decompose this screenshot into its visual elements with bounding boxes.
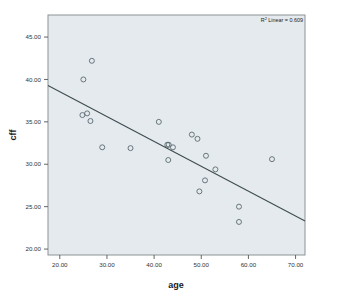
y-tick-label: 35.00 (26, 118, 42, 125)
x-axis-ticks: 20.0030.0040.0050.0060.0070.00 (52, 255, 304, 268)
x-tick-label: 50.00 (194, 261, 210, 268)
x-tick-label: 60.00 (241, 261, 257, 268)
x-tick-label: 30.00 (99, 261, 115, 268)
x-axis-title: age (168, 280, 184, 290)
plot-panel-background (48, 15, 305, 255)
r-squared-annotation: R2 Linear = 0.609 (261, 16, 303, 23)
plot-canvas: 20.0030.0040.0050.0060.0070.00 20.0025.0… (0, 0, 361, 296)
y-tick-label: 45.00 (26, 33, 42, 40)
scatter-plot-figure: 20.0030.0040.0050.0060.0070.00 20.0025.0… (0, 0, 361, 296)
y-tick-label: 30.00 (26, 160, 42, 167)
y-tick-label: 40.00 (26, 76, 42, 83)
y-tick-label: 25.00 (26, 203, 42, 210)
y-axis-title: cff (8, 128, 18, 140)
r-squared-value-text: Linear = 0.609 (267, 17, 303, 23)
y-tick-label: 20.00 (26, 245, 42, 252)
y-axis-ticks: 20.0025.0030.0035.0040.0045.00 (26, 33, 48, 252)
x-tick-label: 70.00 (288, 261, 304, 268)
x-tick-label: 20.00 (52, 261, 68, 268)
x-tick-label: 40.00 (146, 261, 162, 268)
